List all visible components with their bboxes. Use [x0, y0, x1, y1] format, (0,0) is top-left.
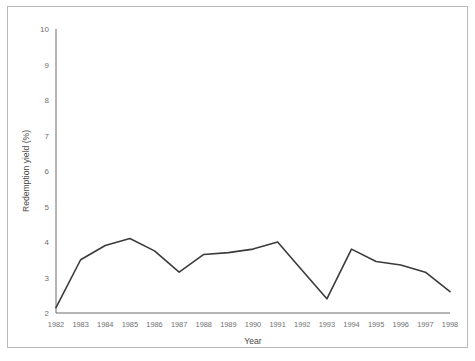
- x-tick-label: 1997: [417, 320, 433, 329]
- x-tick-label: 1990: [245, 320, 261, 329]
- x-tick-label: 1996: [393, 320, 409, 329]
- x-tick-label: 1987: [171, 320, 187, 329]
- redemption-yield-line: [56, 238, 450, 307]
- x-tick-label: 1991: [269, 320, 285, 329]
- x-tick-label: 1983: [72, 320, 88, 329]
- y-axis: 2345678910: [40, 25, 56, 318]
- x-tick-label: 1989: [220, 320, 236, 329]
- x-tick-label: 1986: [146, 320, 162, 329]
- y-tick-label: 3: [45, 274, 50, 283]
- x-tick-label: 1985: [122, 320, 138, 329]
- x-axis-title: Year: [244, 336, 262, 346]
- y-tick-label: 10: [40, 25, 49, 34]
- x-axis: 1982198319841985198619871988198919901991…: [48, 313, 458, 329]
- x-tick-label: 1982: [48, 320, 64, 329]
- y-tick-label: 8: [45, 96, 50, 105]
- y-axis-title: Redemption yield (%): [21, 130, 31, 212]
- x-tick-label: 1988: [196, 320, 212, 329]
- x-tick-label: 1984: [97, 320, 113, 329]
- x-tick-label: 1998: [442, 320, 458, 329]
- y-tick-labels: 2345678910: [40, 25, 49, 318]
- y-tick-label: 9: [45, 61, 50, 70]
- x-tick-label: 1993: [319, 320, 335, 329]
- x-tick-labels: 1982198319841985198619871988198919901991…: [48, 320, 458, 329]
- line-chart: 2345678910 19821983198419851986198719881…: [0, 0, 475, 361]
- x-tick-label: 1995: [368, 320, 384, 329]
- y-tick-label: 2: [45, 309, 50, 318]
- y-tick-label: 5: [45, 203, 50, 212]
- plot-series: [56, 238, 450, 307]
- x-tick-label: 1992: [294, 320, 310, 329]
- y-tick-label: 7: [45, 132, 50, 141]
- chart-figure: 2345678910 19821983198419851986198719881…: [0, 0, 475, 361]
- x-tick-label: 1994: [343, 320, 359, 329]
- y-tick-label: 4: [45, 238, 50, 247]
- y-tick-label: 6: [45, 167, 50, 176]
